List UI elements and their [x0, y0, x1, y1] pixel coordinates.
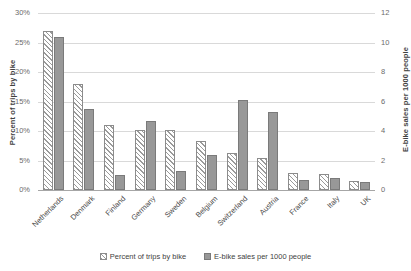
bar-percent-trips: [257, 158, 267, 190]
bar-percent-trips: [43, 31, 53, 190]
bar-ebike-sales: [84, 109, 94, 190]
bar-group: [99, 13, 130, 190]
bar-group: [130, 13, 161, 190]
bar-group: [38, 13, 69, 190]
left-axis-tick-0: 0%: [4, 186, 30, 194]
bar-ebike-sales: [360, 182, 370, 190]
bar-percent-trips: [319, 174, 329, 190]
left-axis-tick-15: 15%: [4, 98, 30, 106]
bar-group: [283, 13, 314, 190]
right-axis-tick-6: 6: [381, 98, 401, 106]
legend-swatch-icon: [100, 253, 107, 260]
bar-percent-trips: [227, 153, 237, 190]
bar-ebike-sales: [176, 171, 186, 190]
category-axis-line: [38, 190, 375, 191]
legend-label: E-bike sales per 1000 people: [214, 252, 311, 261]
bar-percent-trips: [104, 125, 114, 190]
bar-group: [344, 13, 375, 190]
left-axis-tick-5: 5%: [4, 157, 30, 165]
bar-ebike-sales: [299, 180, 309, 190]
chart-legend: Percent of trips by bikeE-bike sales per…: [0, 252, 411, 261]
left-axis-tick-20: 20%: [4, 68, 30, 76]
bar-percent-trips: [165, 130, 175, 190]
right-axis-tick-10: 10: [381, 39, 401, 47]
legend-item[interactable]: Percent of trips by bike: [100, 252, 186, 261]
bar-chart: Percent of trips by bike E-bike sales pe…: [0, 0, 411, 271]
right-axis-tick-0: 0: [381, 186, 401, 194]
bar-group: [161, 13, 192, 190]
bar-group: [314, 13, 345, 190]
legend-swatch-icon: [204, 253, 211, 260]
right-axis-tick-4: 4: [381, 127, 401, 135]
right-axis-tick-12: 12: [381, 9, 401, 17]
bar-group: [69, 13, 100, 190]
bar-percent-trips: [288, 173, 298, 190]
left-axis-tick-25: 25%: [4, 39, 30, 47]
right-axis-tick-2: 2: [381, 157, 401, 165]
bar-ebike-sales: [146, 121, 156, 190]
bar-ebike-sales: [268, 112, 278, 190]
bar-ebike-sales: [238, 100, 248, 190]
bar-group: [222, 13, 253, 190]
left-axis-tick-30: 30%: [4, 9, 30, 17]
legend-label: Percent of trips by bike: [110, 252, 186, 261]
bar-percent-trips: [135, 130, 145, 190]
legend-item[interactable]: E-bike sales per 1000 people: [204, 252, 311, 261]
bar-group: [191, 13, 222, 190]
bar-percent-trips: [196, 141, 206, 190]
bar-ebike-sales: [207, 155, 217, 190]
right-axis-title: E-bike sales per 1000 people: [401, 35, 410, 165]
plot-area: [38, 13, 375, 190]
bar-percent-trips: [73, 84, 83, 190]
bar-percent-trips: [349, 181, 359, 190]
bar-ebike-sales: [54, 37, 64, 190]
left-axis-tick-10: 10%: [4, 127, 30, 135]
right-axis-tick-8: 8: [381, 68, 401, 76]
bar-group: [252, 13, 283, 190]
bar-ebike-sales: [115, 175, 125, 190]
bar-ebike-sales: [330, 178, 340, 190]
